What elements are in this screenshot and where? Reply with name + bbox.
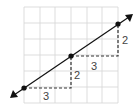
run-label-2: 3: [91, 60, 97, 72]
point-3: [115, 21, 120, 26]
arrowhead-left-icon: [10, 90, 18, 98]
rise-label-2: 2: [122, 34, 128, 46]
arrowhead-right-icon: [125, 14, 133, 22]
point-1: [21, 85, 26, 90]
slope-diagram: 3 2 3 2: [0, 0, 139, 107]
rise-label-1: 2: [74, 69, 80, 81]
point-2: [68, 53, 73, 58]
run-label-1: 3: [43, 90, 49, 102]
